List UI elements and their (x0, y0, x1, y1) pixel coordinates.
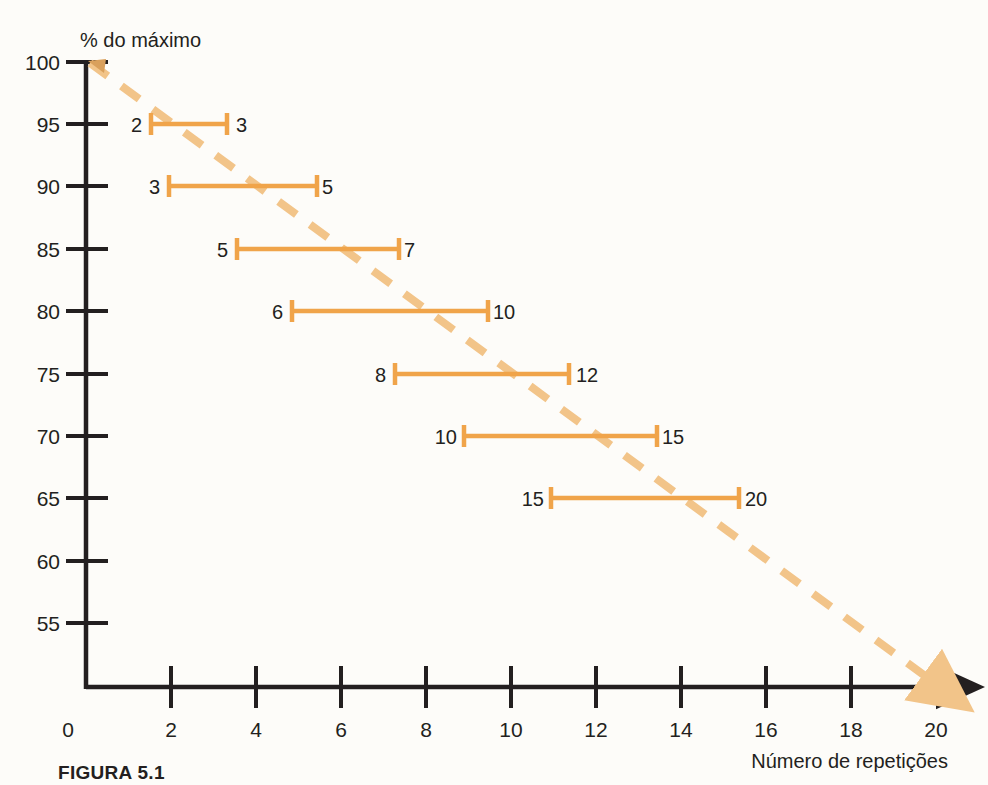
range-bar-min-label: 10 (435, 426, 457, 448)
y-tick-label: 100 (25, 51, 60, 74)
figure-caption: FIGURA 5.1 (58, 762, 165, 784)
range-bar-min-label: 8 (375, 364, 386, 386)
y-tick-label: 70 (37, 425, 60, 448)
range-bar-min-label: 5 (217, 239, 228, 261)
x-tick-label: 16 (754, 718, 777, 741)
x-tick-label: 8 (420, 718, 432, 741)
range-bar-min-label: 6 (272, 301, 283, 323)
y-tick-label: 65 (37, 487, 60, 510)
repetition-percentage-chart: 100 95 90 85 80 75 70 65 60 55 % do máxi… (0, 0, 988, 785)
range-bar-max-label: 3 (236, 114, 247, 136)
range-bar-min-label: 2 (131, 114, 142, 136)
range-bar-min-label: 3 (149, 176, 160, 198)
range-bar-min-label: 15 (522, 488, 544, 510)
range-bar-max-label: 5 (322, 176, 333, 198)
range-bar-max-label: 15 (662, 426, 684, 448)
y-tick-label: 80 (37, 300, 60, 323)
x-tick-label: 12 (584, 718, 607, 741)
x-tick-label: 20 (924, 718, 947, 741)
x-tick-label: 18 (839, 718, 862, 741)
chart-background (0, 0, 988, 785)
range-bar-max-label: 20 (745, 488, 767, 510)
x-tick-label: 2 (165, 718, 177, 741)
y-tick-label: 90 (37, 175, 60, 198)
range-bar-max-label: 12 (576, 364, 598, 386)
figure-root: 100 95 90 85 80 75 70 65 60 55 % do máxi… (0, 0, 988, 785)
y-tick-label: 55 (37, 612, 60, 635)
x-tick-label: 0 (62, 718, 74, 741)
y-tick-label: 95 (37, 113, 60, 136)
x-tick-label: 10 (499, 718, 522, 741)
x-axis-title: Número de repetições (751, 750, 948, 772)
range-bar-max-label: 10 (493, 301, 515, 323)
x-tick-label: 4 (250, 718, 262, 741)
y-tick-label: 75 (37, 363, 60, 386)
y-axis-title: % do máximo (80, 29, 201, 51)
x-tick-label: 14 (669, 718, 693, 741)
y-tick-label: 60 (37, 550, 60, 573)
range-bar-max-label: 7 (404, 239, 415, 261)
x-tick-label: 6 (335, 718, 347, 741)
y-tick-label: 85 (37, 238, 60, 261)
